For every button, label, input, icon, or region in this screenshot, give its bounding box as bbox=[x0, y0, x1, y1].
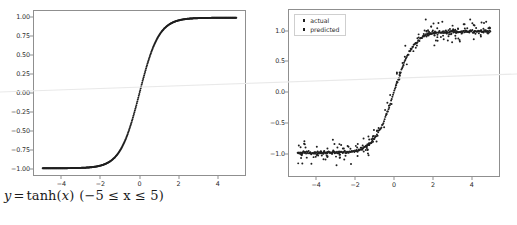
y-tick-mark bbox=[30, 35, 33, 36]
left-plot-axes bbox=[33, 10, 246, 176]
x-tick-mark bbox=[100, 176, 101, 179]
y-tick-label: 0.0 bbox=[275, 88, 285, 96]
y-tick-label: 0.75 bbox=[16, 32, 30, 40]
y-tick-mark bbox=[30, 150, 33, 151]
y-tick-label: −0.25 bbox=[11, 108, 30, 116]
x-tick-label: −2 bbox=[350, 181, 359, 189]
series-tanh(x) bbox=[42, 17, 238, 169]
x-tick-label: −4 bbox=[312, 181, 321, 189]
right-plot-axes: actual predicted bbox=[288, 9, 500, 177]
y-tick-mark bbox=[285, 92, 288, 93]
y-tick-label: −1.0 bbox=[270, 150, 285, 158]
x-tick-label: −4 bbox=[57, 180, 66, 188]
x-tick-mark bbox=[217, 176, 218, 179]
legend-item-predicted: predicted bbox=[298, 26, 340, 33]
y-tick-mark bbox=[30, 112, 33, 113]
y-tick-label: 0.5 bbox=[275, 57, 285, 65]
y-tick-mark bbox=[30, 131, 33, 132]
x-tick-mark bbox=[178, 176, 179, 179]
figure-caption: y=tanh(x)(−5 ≤ x ≤ 5) bbox=[4, 188, 164, 203]
matplotlib-figure: 1.000.750.500.250.00−0.25−0.50−0.75−1.00… bbox=[0, 0, 517, 225]
y-tick-label: −0.5 bbox=[270, 119, 285, 127]
y-tick-mark bbox=[285, 30, 288, 31]
legend-label-predicted: predicted bbox=[310, 26, 339, 33]
y-tick-label: 0.25 bbox=[16, 70, 30, 78]
y-tick-mark bbox=[30, 93, 33, 94]
y-tick-mark bbox=[30, 73, 33, 74]
left-plot-panel: 1.000.750.500.250.00−0.25−0.50−0.75−1.00… bbox=[0, 0, 255, 225]
caption-range: −5 ≤ x ≤ 5 bbox=[85, 188, 159, 203]
y-tick-label: −0.75 bbox=[11, 146, 30, 154]
legend-marker-icon bbox=[303, 28, 305, 30]
left-plot-surface bbox=[34, 11, 245, 175]
plot-legend: actual predicted bbox=[294, 14, 346, 36]
legend-label-actual: actual bbox=[310, 17, 329, 24]
y-tick-mark bbox=[285, 122, 288, 123]
y-tick-label: −0.50 bbox=[11, 127, 30, 135]
caption-lhs: y bbox=[4, 188, 11, 203]
x-tick-mark bbox=[139, 176, 140, 179]
legend-marker-icon bbox=[303, 19, 305, 21]
legend-item-actual: actual bbox=[298, 17, 340, 24]
x-tick-mark bbox=[471, 177, 472, 180]
x-tick-label: 4 bbox=[216, 180, 220, 188]
x-tick-label: 2 bbox=[177, 180, 181, 188]
x-tick-mark bbox=[394, 177, 395, 180]
y-tick-label: 1.0 bbox=[275, 27, 285, 35]
series-predicted bbox=[297, 29, 492, 155]
x-tick-mark bbox=[432, 177, 433, 180]
x-tick-mark bbox=[61, 176, 62, 179]
y-tick-label: 1.00 bbox=[16, 13, 30, 21]
x-tick-label: 0 bbox=[138, 180, 142, 188]
x-tick-mark bbox=[355, 177, 356, 180]
y-tick-mark bbox=[30, 169, 33, 170]
caption-function: tanh bbox=[26, 188, 56, 203]
caption-range-close: ) bbox=[159, 188, 164, 203]
x-tick-mark bbox=[316, 177, 317, 180]
y-tick-mark bbox=[30, 54, 33, 55]
right-plot-panel: actual predicted 1.00.50.0−0.5−1.0 −4−20… bbox=[255, 0, 517, 225]
x-tick-label: −2 bbox=[96, 180, 105, 188]
y-tick-mark bbox=[30, 16, 33, 17]
caption-equals: = bbox=[13, 188, 24, 203]
x-tick-label: 2 bbox=[431, 181, 435, 189]
y-tick-mark bbox=[285, 61, 288, 62]
caption-arg-close: ) bbox=[69, 188, 74, 203]
y-tick-label: 0.00 bbox=[16, 89, 30, 97]
y-tick-label: 0.50 bbox=[16, 51, 30, 59]
x-tick-label: 0 bbox=[392, 181, 396, 189]
y-tick-mark bbox=[285, 153, 288, 154]
x-tick-label: 4 bbox=[470, 181, 474, 189]
y-tick-label: −1.00 bbox=[11, 165, 30, 173]
